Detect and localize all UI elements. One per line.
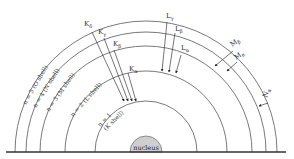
- n-alpha-label: Nα: [261, 87, 272, 99]
- l-beta-line: [169, 33, 175, 72]
- k-gamma-label: Kγ: [98, 28, 106, 38]
- l-gamma-line: [162, 22, 167, 71]
- m-beta-line: [215, 51, 233, 66]
- k-beta-line: [114, 50, 132, 101]
- l-alpha-line: [176, 55, 181, 73]
- l-beta-label: Lβ: [175, 25, 183, 35]
- m-beta-label: Mβ: [229, 36, 243, 50]
- k-alpha-line: [128, 73, 136, 101]
- k-beta-label: Kβ: [113, 40, 121, 50]
- m-alpha-line: [227, 62, 237, 71]
- k-delta-label: Kδ: [84, 20, 92, 29]
- n-alpha-line: [259, 103, 268, 106]
- atomic-shell-diagram: nucleus Kδ Kγ Kβ Kα Lγ Lβ Lα Mβ Mα Nα n …: [0, 0, 294, 159]
- l-alpha-label: Lα: [181, 44, 190, 53]
- l-gamma-label: Lγ: [166, 12, 174, 22]
- nucleus-label: nucleus: [133, 144, 158, 152]
- shell-l-label: n = 2 (L shell): [69, 81, 103, 118]
- k-alpha-label: Kα: [129, 65, 138, 74]
